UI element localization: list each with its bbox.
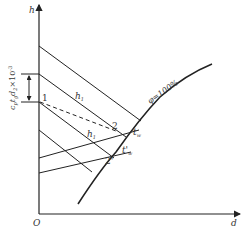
hd-diagram: cptgd2×10-3 h d O φ=100% 1 2 2' h1 h1 tw…: [0, 0, 243, 235]
y-axis-label: h: [29, 5, 35, 15]
saturation-curve-label: φ=100%: [146, 78, 180, 106]
origin-label: O: [33, 218, 41, 228]
point-2-label: 2: [112, 121, 118, 131]
saturation-curve: [78, 64, 212, 204]
enthalpy-line-top: [39, 46, 141, 121]
interval-label: cptgd2×10-3: [7, 66, 19, 110]
point-2-prime-label: 2': [105, 156, 113, 166]
tw-prime-line: [39, 152, 131, 173]
tw-label: tw: [133, 127, 142, 138]
h1-lower-label: h1: [87, 129, 96, 140]
enthalpy-line-point1: [39, 102, 114, 158]
h1-upper-label: h1: [75, 91, 84, 102]
process-line-1-2: [40, 102, 116, 131]
svg-text:cptgd2×10-3: cptgd2×10-3: [7, 66, 19, 110]
diagram-canvas: cptgd2×10-3 h d O φ=100% 1 2 2' h1 h1 tw…: [0, 0, 243, 235]
x-axis-label: d: [231, 218, 237, 228]
point-1-label: 1: [42, 93, 48, 103]
tw-prime-label: t'w: [122, 145, 133, 156]
